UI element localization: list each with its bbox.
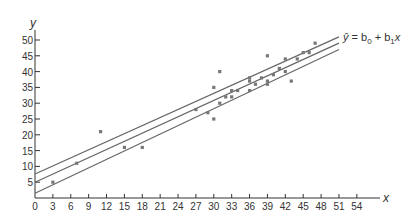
x-axis-label: x <box>382 191 390 205</box>
data-point <box>75 162 78 165</box>
data-point <box>284 70 287 73</box>
x-tick-label: 48 <box>316 201 328 212</box>
x-tick-label: 21 <box>155 201 167 212</box>
y-tick-label: 50 <box>22 35 34 46</box>
data-point <box>212 86 215 89</box>
data-point <box>123 146 126 149</box>
data-point <box>266 83 269 86</box>
x-tick-label: 3 <box>50 201 56 212</box>
x-tick-label: 9 <box>86 201 92 212</box>
x-tick-label: 33 <box>226 201 238 212</box>
x-tick-label: 12 <box>101 201 113 212</box>
x-tick-label: 27 <box>190 201 202 212</box>
x-tick-label: 30 <box>208 201 220 212</box>
data-point <box>230 95 233 98</box>
data-point <box>296 57 299 60</box>
data-point <box>99 130 102 133</box>
data-point <box>278 67 281 70</box>
data-point <box>272 73 275 76</box>
x-tick-label: 45 <box>298 201 310 212</box>
data-point <box>218 102 221 105</box>
data-point <box>224 95 227 98</box>
x-tick-label: 0 <box>32 201 38 212</box>
x-tick-label: 36 <box>244 201 256 212</box>
scatter-plot: 0369121518212427303336394245485154510152… <box>0 0 414 221</box>
data-point <box>206 111 209 114</box>
data-point <box>248 89 251 92</box>
lower-band-line <box>35 49 339 193</box>
y-tick-label: 40 <box>22 67 34 78</box>
data-point <box>248 76 251 79</box>
data-point <box>266 54 269 57</box>
y-tick-label: 30 <box>22 98 34 109</box>
data-point <box>314 42 317 45</box>
data-point <box>260 76 263 79</box>
data-point <box>218 70 221 73</box>
data-point <box>212 117 215 120</box>
axes: 0369121518212427303336394245485154510152… <box>22 30 380 212</box>
data-point <box>248 79 251 82</box>
data-point <box>230 89 233 92</box>
y-tick-label: 10 <box>22 161 34 172</box>
data-point <box>194 108 197 111</box>
data-point <box>141 146 144 149</box>
y-axis-label: y <box>29 16 37 30</box>
upper-band-line <box>35 37 339 174</box>
x-tick-label: 18 <box>137 201 149 212</box>
data-point <box>236 89 239 92</box>
x-tick-label: 42 <box>280 201 292 212</box>
data-point <box>290 79 293 82</box>
data-point <box>254 83 257 86</box>
data-point <box>51 181 54 184</box>
y-tick-label: 45 <box>22 51 34 62</box>
regression-line <box>35 43 339 182</box>
data-point <box>308 51 311 54</box>
data-point <box>302 51 305 54</box>
y-tick-label: 25 <box>22 114 34 125</box>
data-point <box>266 79 269 82</box>
x-tick-label: 51 <box>333 201 345 212</box>
x-tick-label: 15 <box>119 201 131 212</box>
data-point <box>284 57 287 60</box>
data-points <box>51 42 316 184</box>
y-tick-label: 20 <box>22 130 34 141</box>
y-tick-label: 35 <box>22 82 34 93</box>
x-tick-label: 39 <box>262 201 274 212</box>
y-tick-label: 5 <box>27 177 33 188</box>
regression-lines <box>35 37 339 193</box>
x-tick-label: 6 <box>68 201 74 212</box>
equation-annotation: ŷ = b0 + b1x <box>342 31 401 46</box>
y-tick-label: 15 <box>22 146 34 157</box>
x-tick-label: 24 <box>172 201 184 212</box>
x-tick-label: 54 <box>351 201 363 212</box>
